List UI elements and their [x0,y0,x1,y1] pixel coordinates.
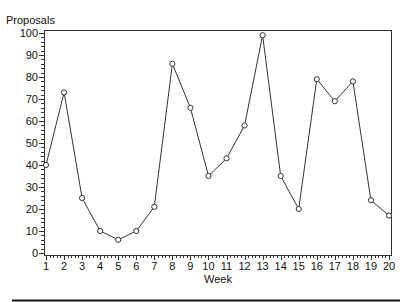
x-tick-label: 1 [43,260,49,272]
data-point-marker [80,195,85,200]
data-point-marker [206,173,211,178]
y-axis-label: Proposals [6,14,55,26]
data-point-marker [98,228,103,233]
x-tick-label: 19 [365,260,377,272]
data-point-marker [386,213,391,218]
x-tick-label: 10 [202,260,214,272]
data-point-marker [260,33,265,38]
data-point-marker [43,162,48,167]
data-point-marker [170,61,175,66]
data-point-marker [188,105,193,110]
y-tick-label: 60 [26,115,38,127]
data-point-marker [296,206,301,211]
x-axis-label: Week [204,273,232,285]
series-line [46,35,389,240]
data-point-marker [134,228,139,233]
data-point-marker [242,123,247,128]
data-point-marker [61,90,66,95]
x-tick-label: 9 [187,260,193,272]
x-tick-label: 4 [97,260,103,272]
x-tick-label: 12 [238,260,250,272]
x-tick-label: 8 [169,260,175,272]
data-point-marker [224,156,229,161]
y-tick-label: 70 [26,93,38,105]
x-tick-label: 20 [383,260,395,272]
y-tick-label: 40 [26,159,38,171]
x-tick-label: 13 [257,260,269,272]
line-chart: 0102030405060708090100 12345678910111213… [0,0,412,302]
plot-border [45,31,392,256]
data-point-marker [278,173,283,178]
y-tick-label: 10 [26,225,38,237]
x-tick-label: 14 [275,260,287,272]
data-point-marker [152,204,157,209]
y-tick-label: 90 [26,49,38,61]
y-tick-label: 0 [32,247,38,259]
x-axis: 1234567891011121314151617181920 [43,255,395,272]
y-axis: 0102030405060708090100 [20,27,44,259]
data-point-marker [332,99,337,104]
x-tick-label: 11 [221,260,232,272]
x-tick-label: 3 [79,260,85,272]
x-tick-label: 18 [347,260,359,272]
x-tick-label: 16 [311,260,323,272]
y-tick-label: 80 [26,71,38,83]
data-point-marker [116,237,121,242]
x-tick-label: 5 [115,260,121,272]
y-tick-label: 100 [20,27,38,39]
x-tick-label: 17 [329,260,341,272]
data-point-marker [368,198,373,203]
data-series [43,33,391,243]
x-tick-label: 2 [61,260,67,272]
data-point-marker [314,77,319,82]
y-tick-label: 50 [26,137,38,149]
x-tick-label: 15 [293,260,305,272]
data-point-marker [350,79,355,84]
y-tick-label: 30 [26,181,38,193]
plot-frame [45,31,392,256]
y-tick-label: 20 [26,203,38,215]
x-tick-label: 6 [133,260,139,272]
x-tick-label: 7 [151,260,157,272]
